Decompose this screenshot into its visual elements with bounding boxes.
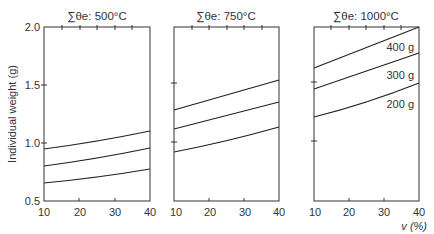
- chart-figure: Individual weight (g) 2.0 1.5 1.0 0.5 ∑θ…: [0, 0, 434, 234]
- series-label-200g: 200 g: [386, 98, 414, 110]
- series-line-200g: [174, 127, 279, 152]
- series-label-300g: 300 g: [386, 69, 414, 81]
- x-tick-label: 20: [74, 206, 86, 218]
- x-tick-label: 40: [144, 206, 156, 218]
- series-line-200g: [44, 169, 150, 183]
- series-label-400g: 400 g: [386, 41, 414, 53]
- y-axis-label: Individual weight (g): [6, 65, 18, 163]
- x-tick-label: 10: [309, 206, 321, 218]
- x-tick-label: 30: [378, 206, 390, 218]
- panel-title: ∑θe: 500°C: [67, 10, 126, 23]
- x-tick-label: 10: [170, 206, 182, 218]
- x-tick-label: 40: [413, 206, 425, 218]
- panel-500c: ∑θe: 500°C 10 20 30 40: [38, 10, 156, 218]
- series-line-400g: [44, 131, 150, 149]
- x-tick-label: 20: [343, 206, 355, 218]
- panel-750c: ∑θe: 750°C 10 20 30 40: [170, 10, 285, 218]
- panel-1000c: ∑θe: 1000°C 400 g 300 g 200 g 10 20 30 4…: [309, 10, 427, 232]
- y-tick-label: 1.0: [25, 137, 40, 149]
- x-axis-label: v (%): [401, 220, 427, 232]
- y-tick-label: 2.0: [25, 21, 40, 33]
- panel-title: ∑θe: 750°C: [196, 10, 255, 23]
- y-tick-label: 1.5: [25, 79, 40, 91]
- x-tick-label: 40: [273, 206, 285, 218]
- panel-title: ∑θe: 1000°C: [333, 10, 399, 23]
- series-line-300g: [44, 148, 150, 166]
- x-tick-label: 10: [38, 206, 50, 218]
- x-tick-label: 20: [204, 206, 216, 218]
- x-tick-label: 30: [109, 206, 121, 218]
- x-tick-label: 30: [239, 206, 251, 218]
